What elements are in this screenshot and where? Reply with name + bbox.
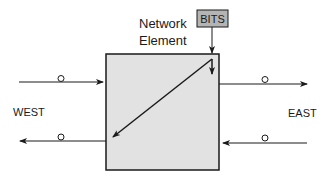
network-element-diagram: BITS Network Element WEST EAST: [0, 0, 326, 183]
bits-label: BITS: [200, 13, 224, 25]
west-out-marker-icon: [58, 134, 64, 140]
network-element-label: Network Element: [139, 16, 190, 48]
east-in-marker-icon: [262, 135, 268, 141]
west-in-marker-icon: [58, 76, 64, 82]
east-out-marker-icon: [262, 77, 268, 83]
east-label: EAST: [288, 107, 317, 119]
west-label: WEST: [13, 106, 45, 118]
network-element-box: [106, 54, 219, 170]
